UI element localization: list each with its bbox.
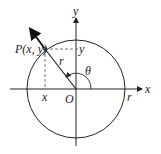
label-y-axis: y [72,4,79,18]
label-radius-axis: r [127,90,132,104]
label-point-p: P(x, y) [14,42,47,56]
label-x-projection: x [41,90,48,104]
label-origin: O [65,92,74,106]
label-y-projection: y [78,42,85,56]
label-x-axis: x [144,82,151,96]
label-angle-theta: θ [85,64,91,78]
label-radius-segment: r [59,54,64,68]
diagram-canvas: P(x, y) y x O θ r r x y [0,0,161,154]
